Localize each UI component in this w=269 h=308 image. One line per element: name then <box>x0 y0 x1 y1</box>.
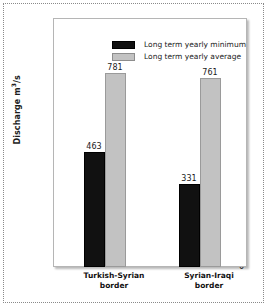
bar-average-turkish-syrian[interactable] <box>105 73 126 267</box>
bar-average-syrian-iraqi[interactable] <box>200 78 221 267</box>
legend: Long term yearly minimum Long term yearl… <box>112 40 252 63</box>
x-category-label-turkish-syrian-line2: border <box>71 281 157 291</box>
y-axis-title-tail: /s <box>13 75 22 83</box>
y-axis-title: Discharge m3/s <box>10 67 22 153</box>
legend-swatch-minimum-icon <box>112 41 135 49</box>
bar-chart: Discharge m3/s 1000 900 800 700 600 500 … <box>0 0 269 308</box>
bar-value-minimum-turkish-syrian: 463 <box>76 142 112 151</box>
bar-value-average-syrian-iraqi: 761 <box>192 68 228 77</box>
legend-label-average: Long term yearly average <box>144 53 241 61</box>
y-axis-title-exponent: 3 <box>10 83 17 87</box>
legend-swatch-average-icon <box>112 53 135 61</box>
bar-value-average-turkish-syrian: 781 <box>97 63 133 72</box>
x-category-label-turkish-syrian: Turkish-Syrian border <box>71 271 157 290</box>
x-category-label-turkish-syrian-line1: Turkish-Syrian <box>84 271 145 280</box>
plot-area: Long term yearly minimum Long term yearl… <box>53 18 247 267</box>
x-category-label-syrian-iraqi-line1: Syrian-Iraqi <box>184 271 234 280</box>
legend-label-minimum: Long term yearly minimum <box>144 41 246 49</box>
y-axis-title-base: Discharge m <box>13 87 22 144</box>
x-category-label-syrian-iraqi: Syrian-Iraqi border <box>166 271 252 290</box>
bar-value-minimum-syrian-iraqi: 331 <box>171 174 207 183</box>
x-category-label-syrian-iraqi-line2: border <box>166 281 252 291</box>
legend-item-average[interactable]: Long term yearly average <box>112 52 241 62</box>
bar-minimum-syrian-iraqi[interactable] <box>179 184 200 267</box>
legend-item-minimum[interactable]: Long term yearly minimum <box>112 40 246 50</box>
bar-minimum-turkish-syrian[interactable] <box>84 152 105 267</box>
